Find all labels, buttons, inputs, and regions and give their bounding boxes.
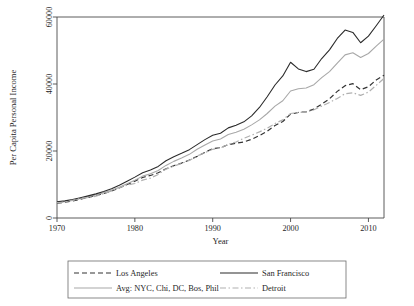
plot-border <box>57 17 384 218</box>
legend-label: Avg: NYC, Chi, DC, Bos, Phil <box>116 284 220 293</box>
series-line-detroit <box>57 78 384 202</box>
chart-legend: Los AngelesSan FranciscoAvg: NYC, Chi, D… <box>68 261 346 298</box>
y-tick-label: 40000 <box>45 74 54 94</box>
legend-label: San Francisco <box>262 269 309 278</box>
legend-label: Los Angeles <box>116 269 158 278</box>
plot-frame <box>57 17 384 218</box>
y-tick-label: 60000 <box>45 7 54 27</box>
chart-svg: 0200004000060000 19701980199020002010 Ye… <box>0 0 414 306</box>
y-tick-label: 0 <box>45 216 54 220</box>
y-axis: 0200004000060000 <box>45 7 57 220</box>
x-axis: 19701980199020002010 <box>49 218 377 233</box>
legend-label: Detroit <box>262 284 286 293</box>
x-tick-label: 2000 <box>282 224 298 233</box>
x-tick-label: 2010 <box>360 224 376 233</box>
y-axis-title: Per Capita Personal Income <box>8 69 18 165</box>
x-tick-label: 1980 <box>127 224 143 233</box>
series-lines <box>57 15 384 203</box>
y-tick-label: 20000 <box>45 141 54 161</box>
x-tick-label: 1990 <box>205 224 221 233</box>
chart-figure: 0200004000060000 19701980199020002010 Ye… <box>0 0 414 306</box>
x-tick-label: 1970 <box>49 224 65 233</box>
series-line-avg-nyc-chi-dc-bos-phil <box>57 39 384 202</box>
series-line-san-francisco <box>57 15 384 202</box>
x-axis-title: Year <box>213 236 229 246</box>
